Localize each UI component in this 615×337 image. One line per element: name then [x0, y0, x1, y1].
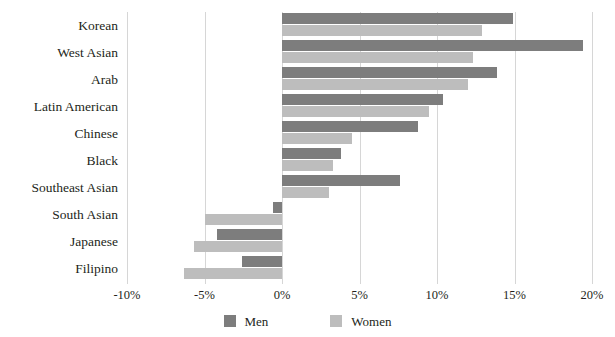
bar-men-black [282, 148, 341, 159]
category-label-korean: Korean [0, 12, 118, 39]
bar-men-arab [282, 67, 497, 78]
bar-row [127, 66, 592, 93]
category-label-west-asian: West Asian [0, 39, 118, 66]
bar-men-latin-american [282, 94, 443, 105]
category-label-latin-american: Latin American [0, 93, 118, 120]
x-tick-label-5: 5% [351, 286, 368, 304]
bar-women-korean [282, 25, 482, 36]
bar-men-south-asian [273, 202, 282, 213]
bar-women-filipino [184, 268, 282, 279]
category-label-south-asian: South Asian [0, 201, 118, 228]
legend-swatch-men [224, 315, 236, 327]
category-label-chinese: Chinese [0, 120, 118, 147]
bar-row [127, 255, 592, 282]
x-tick-label-neg10: -10% [113, 286, 140, 304]
legend-item-men[interactable]: Men [224, 315, 269, 328]
category-label-arab: Arab [0, 66, 118, 93]
category-label-japanese: Japanese [0, 228, 118, 255]
plot-area [127, 12, 592, 284]
x-axis-ticks: -10%-5%0%5%10%15%20% [127, 286, 592, 306]
category-label-filipino: Filipino [0, 255, 118, 282]
x-tick-label-15: 15% [503, 286, 526, 304]
bar-women-latin-american [282, 106, 429, 117]
legend-item-women[interactable]: Women [330, 315, 391, 328]
bar-women-japanese [194, 241, 282, 252]
bar-women-arab [282, 79, 468, 90]
bar-women-southeast-asian [282, 187, 329, 198]
legend-label-men: Men [245, 315, 269, 328]
bar-women-south-asian [205, 214, 283, 225]
bar-men-japanese [217, 229, 282, 240]
bar-chart: KoreanWest AsianArabLatin AmericanChines… [0, 0, 615, 337]
bar-row [127, 39, 592, 66]
bar-men-korean [282, 13, 513, 24]
category-label-southeast-asian: Southeast Asian [0, 174, 118, 201]
bar-rows [127, 12, 592, 284]
bar-women-black [282, 160, 333, 171]
bar-men-chinese [282, 121, 418, 132]
bar-row [127, 120, 592, 147]
bar-men-southeast-asian [282, 175, 400, 186]
bar-men-west-asian [282, 40, 583, 51]
gridline-20 [592, 12, 593, 284]
x-tick-label-10: 10% [426, 286, 449, 304]
chart-legend: MenWomen [0, 310, 615, 332]
bar-row [127, 228, 592, 255]
bar-women-chinese [282, 133, 352, 144]
bar-row [127, 201, 592, 228]
legend-swatch-women [330, 315, 342, 327]
bar-row [127, 12, 592, 39]
x-tick-label-0: 0% [274, 286, 291, 304]
legend-label-women: Women [351, 315, 391, 328]
x-tick-label-20: 20% [581, 286, 604, 304]
bar-women-west-asian [282, 52, 473, 63]
x-tick-label-neg5: -5% [194, 286, 215, 304]
bar-row [127, 147, 592, 174]
category-label-black: Black [0, 147, 118, 174]
bar-row [127, 93, 592, 120]
bar-row [127, 174, 592, 201]
bar-men-filipino [242, 256, 282, 267]
